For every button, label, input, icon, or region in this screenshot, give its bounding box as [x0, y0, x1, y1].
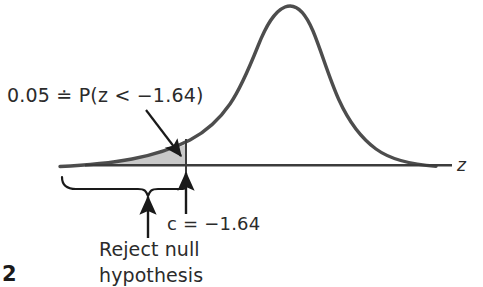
critical-value-label: c = −1.64 — [167, 215, 260, 233]
reject-null-label-line1: Reject null — [99, 240, 200, 259]
normal-curve-figure: 0.05 ≐ P(z < −1.64) z c = −1.64 Reject n… — [0, 0, 483, 287]
axis-label-z: z — [457, 157, 466, 174]
figure-graphic — [0, 0, 483, 287]
rejection-region-brace — [62, 177, 186, 196]
page-number: 2 — [2, 264, 17, 285]
probability-statement-label: 0.05 ≐ P(z < −1.64) — [7, 86, 204, 105]
probability-annotation-arrow — [146, 110, 181, 156]
reject-null-label-line2: hypothesis — [99, 266, 203, 285]
